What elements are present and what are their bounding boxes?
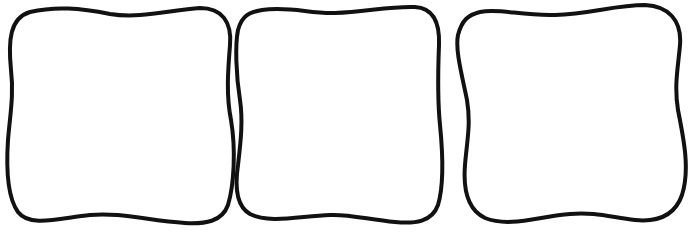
wavy-square-2 (236, 7, 442, 223)
figure-canvas (0, 0, 689, 236)
wavy-square-3 (457, 5, 686, 222)
wavy-square-1 (7, 8, 234, 223)
